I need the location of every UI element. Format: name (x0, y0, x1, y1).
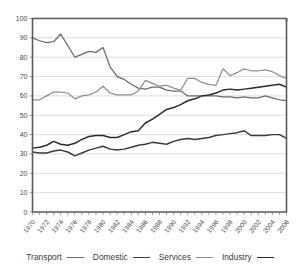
x-tick-label: 1980 (92, 218, 107, 234)
x-tick-label: 1990 (163, 218, 178, 234)
y-tick-label: 100 (16, 15, 28, 22)
series-line-services (33, 69, 287, 100)
x-tick-label: 2004 (262, 218, 277, 234)
y-tick-label: 60 (20, 92, 28, 99)
x-tick-label: 1998 (219, 218, 234, 234)
legend-line-swatch (257, 257, 274, 258)
x-tick-label: 1982 (106, 218, 121, 234)
x-tick-label: 1978 (78, 218, 93, 234)
x-tick-label: 1974 (50, 218, 65, 234)
x-tick-label: 1986 (135, 218, 150, 234)
y-tick-label: 90 (20, 34, 28, 41)
legend-item-transport[interactable]: Transport (26, 252, 84, 262)
legend-label: Services (159, 252, 191, 262)
y-tick-label: 50 (20, 112, 28, 119)
legend-item-domestic[interactable]: Domestic (93, 252, 150, 262)
x-tick-label: 1996 (205, 218, 220, 234)
series-line-transport (33, 34, 287, 101)
series-line-industry (33, 84, 287, 148)
x-tick-label: 1994 (191, 218, 206, 234)
data-series (33, 34, 287, 156)
legend-line-swatch (133, 257, 150, 258)
legend-label: Industry (222, 252, 252, 262)
y-tick-label: 40 (20, 131, 28, 138)
y-tick-label: 30 (20, 150, 28, 157)
y-tick-label: 0 (24, 209, 28, 216)
x-tick-label: 1988 (149, 218, 164, 234)
legend-label: Transport (26, 252, 62, 262)
legend-label: Domestic (93, 252, 128, 262)
x-tick-label: 1992 (177, 218, 192, 234)
legend-item-industry[interactable]: Industry (222, 252, 274, 262)
legend-line-swatch (196, 257, 213, 258)
y-tick-label: 80 (20, 54, 28, 61)
x-tick-label: 2006 (276, 218, 291, 234)
x-tick-label: 2000 (233, 218, 248, 234)
y-tick-label: 70 (20, 73, 28, 80)
chart-page: 0102030405060708090100 19701972197419761… (0, 0, 300, 276)
x-tick-label: 1976 (64, 218, 79, 234)
chart-svg: 0102030405060708090100 19701972197419761… (0, 0, 300, 246)
chart-legend: TransportDomesticServicesIndustry (0, 246, 300, 268)
y-tick-label: 10 (20, 189, 28, 196)
y-tick-label: 20 (20, 170, 28, 177)
grid-lines (33, 19, 287, 193)
y-axis-labels: 0102030405060708090100 (16, 15, 28, 216)
x-tick-label: 2002 (248, 218, 263, 234)
legend-line-swatch (67, 257, 84, 258)
x-tick-label: 1984 (121, 218, 136, 234)
x-axis-labels: 1970197219741976197819801982198419861988… (22, 218, 291, 234)
legend-item-services[interactable]: Services (159, 252, 213, 262)
x-tick-label: 1970 (22, 218, 37, 234)
x-tick-label: 1972 (36, 218, 51, 234)
line-chart: 0102030405060708090100 19701972197419761… (0, 0, 300, 276)
